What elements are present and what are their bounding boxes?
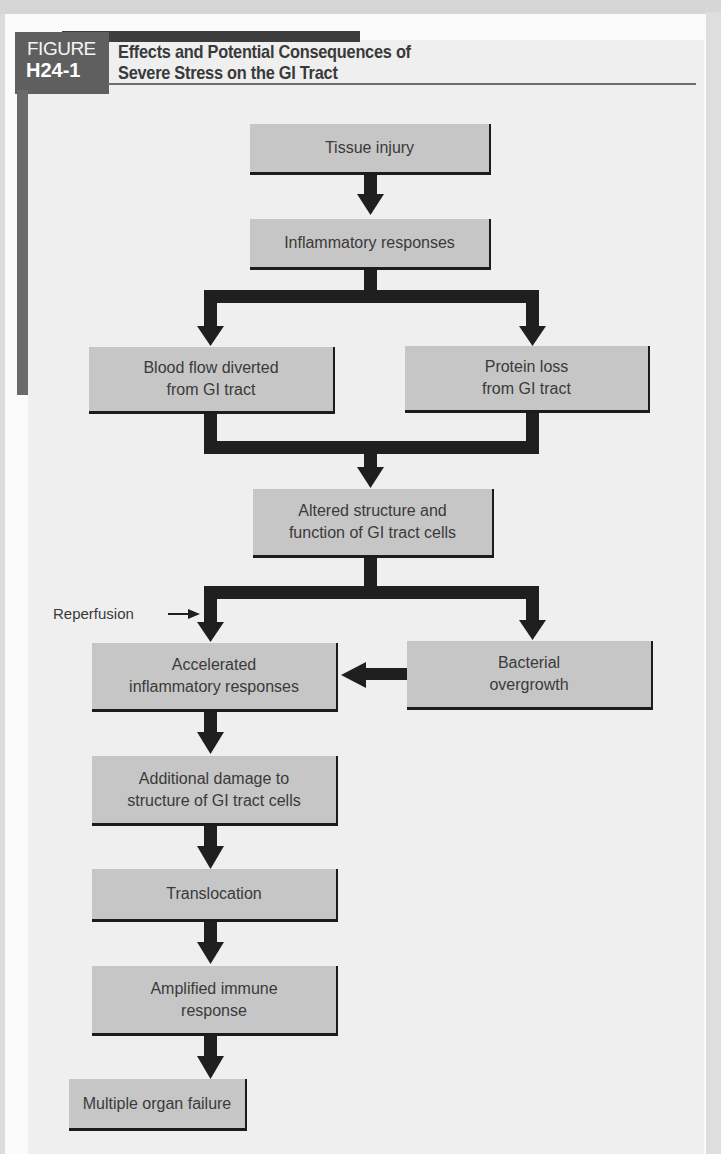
node-accelerated-inflammatory: Accelerated inflammatory responses <box>92 643 338 712</box>
arrow-down-icon <box>519 326 546 346</box>
reperfusion-label: Reperfusion <box>53 605 134 622</box>
node-label-line2: function of GI tract cells <box>289 522 456 544</box>
node-label-line2: from GI tract <box>482 378 571 400</box>
node-label: Multiple organ failure <box>83 1093 232 1115</box>
node-label: Translocation <box>166 883 261 905</box>
arrow-down-icon <box>197 942 224 964</box>
arrow-down-icon <box>357 172 384 215</box>
node-label-line1: Amplified immune <box>150 978 277 1000</box>
node-label-line1: Additional damage to <box>127 768 300 790</box>
arrow-down-icon <box>357 467 384 488</box>
node-multiple-organ-failure: Multiple organ failure <box>69 1079 247 1131</box>
node-label: Inflammatory responses <box>284 232 455 254</box>
arrow-down-icon <box>519 620 546 640</box>
arrow-right-icon <box>188 609 200 619</box>
node-blood-flow-diverted: Blood flow diverted from GI tract <box>89 347 335 414</box>
node-amplified-immune: Amplified immune response <box>92 966 338 1036</box>
connector-split-bar <box>204 290 539 303</box>
arrow-left-icon <box>341 662 366 688</box>
connector-split-bar-2 <box>204 586 539 599</box>
node-bacterial-overgrowth: Bacterial overgrowth <box>407 641 653 710</box>
node-inflammatory-responses: Inflammatory responses <box>250 219 491 270</box>
node-additional-damage: Additional damage to structure of GI tra… <box>92 756 338 826</box>
arrow-down-icon <box>197 732 224 754</box>
arrow-down-icon <box>197 846 224 869</box>
node-label-line2: inflammatory responses <box>129 676 299 698</box>
node-label-line2: from GI tract <box>143 379 278 401</box>
node-label-line1: Blood flow diverted <box>143 357 278 379</box>
node-label-line1: Altered structure and <box>289 500 456 522</box>
node-label-line1: Accelerated <box>129 654 299 676</box>
arrow-down-icon <box>197 622 224 642</box>
node-label-line2: response <box>150 1000 277 1022</box>
arrow-down-icon <box>197 326 224 346</box>
node-label-line1: Protein loss <box>482 356 571 378</box>
node-label-line2: overgrowth <box>489 674 568 696</box>
arrow-down-icon <box>197 1056 224 1079</box>
node-protein-loss: Protein loss from GI tract <box>405 346 650 413</box>
node-label-line2: structure of GI tract cells <box>127 790 300 812</box>
node-translocation: Translocation <box>92 869 338 922</box>
node-altered-structure: Altered structure and function of GI tra… <box>253 489 494 558</box>
node-label: Tissue injury <box>325 137 414 159</box>
node-label-line1: Bacterial <box>489 652 568 674</box>
node-tissue-injury: Tissue injury <box>250 124 491 175</box>
